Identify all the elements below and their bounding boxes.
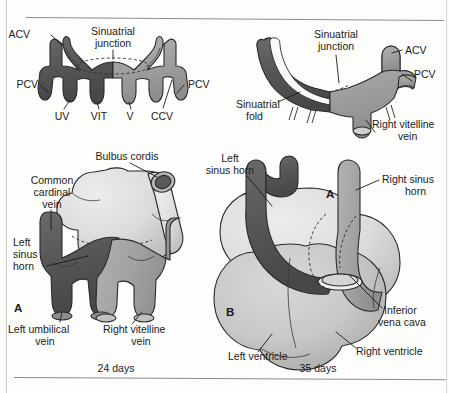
label-uv: UV: [55, 110, 70, 122]
label-pcv-right: PCV: [188, 78, 210, 90]
inferior-vena-cava-lumen-inner: [322, 274, 358, 286]
panel-letter-b: B: [226, 306, 234, 318]
right-vitelline-lumen: [353, 127, 371, 135]
figure-root: ACV PCV UV VIT V CCV PCV Sinuatrial junc…: [0, 0, 449, 393]
label-common-cardinal-1: Common: [31, 174, 74, 186]
panel-bottom-right: Left sinus horn Right sinus horn A Infer…: [206, 152, 434, 374]
label-inferior-vena-cava-2: vena cava: [378, 316, 426, 328]
label-right-vitelline-tr-1: Right vitelline: [372, 118, 435, 130]
label-acv-left: ACV: [8, 28, 30, 40]
label-left-sinus-horn-1: Left: [13, 236, 31, 248]
caption-35-days: 35 days: [300, 362, 337, 374]
label-pcv-tr: PCV: [414, 68, 436, 80]
label-left-umbilical-2: vein: [35, 335, 54, 347]
label-common-cardinal-3: vein: [42, 198, 61, 210]
label-sinuatrial-fold-1: Sinuatrial: [236, 98, 280, 110]
leader-ccv: [163, 80, 172, 108]
leader-sinuatrial-junction-tr: [336, 55, 339, 83]
label-left-sinus-horn-35d-1: Left: [221, 152, 239, 164]
label-bulbus-cordis: Bulbus cordis: [95, 150, 158, 162]
vitelline-lumen-right: [96, 314, 116, 322]
label-sinuatrial-junction-line2: junction: [94, 37, 131, 49]
label-right-sinus-horn-2: horn: [405, 185, 426, 197]
panel-top-right: Sinuatrial junction ACV PCV Sinuatrial f…: [236, 28, 436, 142]
label-sinuatrial-junction-tr-2: junction: [317, 40, 354, 52]
label-ccv: CCV: [151, 110, 173, 122]
label-pcv-left: PCV: [16, 78, 38, 90]
label-right-vitelline-tr-2: vein: [398, 130, 417, 142]
label-right-sinus-horn-1: Right sinus: [382, 173, 434, 185]
label-left-umbilical-1: Left umbilical: [8, 323, 69, 335]
left-sinus-horn-hook: [266, 156, 298, 197]
panel-bottom-left: Bulbus cordis Common cardinal vein Left …: [8, 150, 183, 374]
label-right-vitelline-24d-2: vein: [131, 335, 150, 347]
label-left-ventricle: Left ventricle: [228, 350, 288, 362]
label-acv-tr: ACV: [405, 44, 427, 56]
caption-24-days: 24 days: [98, 362, 135, 374]
label-sinuatrial-junction-tr-1: Sinuatrial: [314, 28, 358, 40]
label-left-sinus-horn-35d-2: sinus horn: [206, 164, 255, 176]
label-left-sinus-horn-3: horn: [13, 260, 34, 272]
label-inferior-vena-cava-1: Inferior: [384, 304, 417, 316]
label-sinuatrial-junction-line1: Sinuatrial: [91, 25, 135, 37]
figure-canvas: ACV PCV UV VIT V CCV PCV Sinuatrial junc…: [0, 0, 449, 393]
label-inset-marker-a: A: [326, 188, 334, 200]
label-right-vitelline-24d-1: Right vitelline: [103, 323, 166, 335]
acv-branch-tr: [382, 46, 400, 72]
label-right-ventricle: Right ventricle: [356, 345, 423, 357]
label-vit: VIT: [91, 110, 108, 122]
label-left-sinus-horn-2: sinus: [13, 248, 38, 260]
label-common-cardinal-2: cardinal: [34, 186, 71, 198]
panel-letter-a: A: [14, 302, 22, 314]
label-v: V: [126, 110, 133, 122]
label-sinuatrial-fold-2: fold: [246, 110, 263, 122]
panel-top-left: ACV PCV UV VIT V CCV PCV Sinuatrial junc…: [8, 25, 209, 122]
